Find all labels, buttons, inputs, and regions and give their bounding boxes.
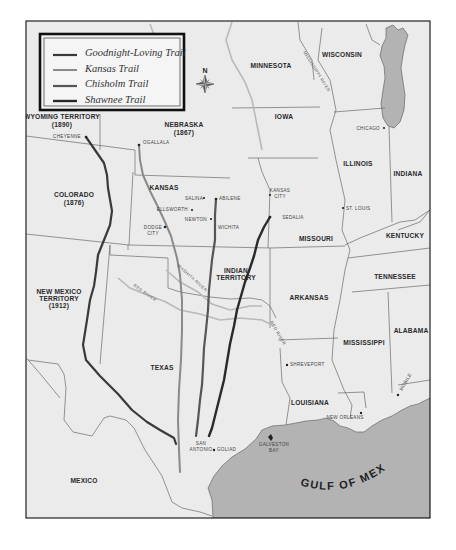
label-texas: TEXAS <box>151 364 174 371</box>
label-nebraska-year: (1867) <box>174 129 194 137</box>
label-tennessee: TENNESSEE <box>374 273 416 280</box>
label-wichita: WICHITA <box>218 225 240 230</box>
label-cheyenne: CHEYENNE <box>53 134 81 139</box>
label-dodge-city-2: CITY <box>147 231 159 236</box>
label-dodge-city-1: DODGE <box>144 225 162 230</box>
label-san-antonio-2: ANTONIO <box>190 447 213 452</box>
label-chicago: CHICAGO <box>356 126 380 131</box>
legend-label-goodnight-loving: Goodnight-Loving Trail <box>85 47 186 58</box>
label-goliad: GOLIAD <box>217 447 237 452</box>
label-st-louis: ST. LOUIS <box>346 206 370 211</box>
label-kansas-city-2: CITY <box>274 194 286 199</box>
label-mexico: MEXICO <box>70 477 97 484</box>
label-illinois: ILLINOIS <box>343 160 373 167</box>
label-san-antonio-1: SAN <box>196 441 206 446</box>
label-new-orleans: NEW ORLEANS <box>326 415 363 420</box>
label-kansas-city-1: KANSAS <box>270 188 290 193</box>
label-indian-territory-2: TERRITORY <box>216 274 256 281</box>
label-kansas: KANSAS <box>149 184 178 191</box>
label-wyoming-year: (1890) <box>52 121 72 129</box>
compass-north-label: N <box>202 67 207 74</box>
legend-label-chisholm: Chisholm Trail <box>85 78 148 89</box>
label-abilene: ABILENE <box>219 196 241 201</box>
label-kentucky: KENTUCKY <box>386 232 425 239</box>
legend-label-shawnee: Shawnee Trail <box>85 94 145 105</box>
label-colorado-year: (1876) <box>64 199 84 207</box>
label-newton: NEWTON <box>185 217 207 222</box>
label-sedalia: SEDALIA <box>282 215 304 220</box>
label-missouri: MISSOURI <box>299 235 333 242</box>
label-new-mexico: NEW MEXICO <box>36 288 81 295</box>
label-galveston-2: BAY <box>269 448 279 453</box>
label-shreveport: SHREVEPORT <box>290 362 325 367</box>
label-alabama: ALABAMA <box>394 327 429 334</box>
label-mississippi: MISSISSIPPI <box>343 339 384 346</box>
label-colorado: COLORADO <box>54 191 94 198</box>
label-arkansas: ARKANSAS <box>290 294 329 301</box>
label-iowa: IOWA <box>275 113 293 120</box>
label-new-mexico-2: TERRITORY <box>39 295 79 302</box>
label-louisiana: LOUISIANA <box>291 399 329 406</box>
label-galveston-1: GALVESTON <box>259 442 289 447</box>
label-salina: SALINA <box>185 196 204 201</box>
label-nebraska: NEBRASKA <box>165 121 204 128</box>
cattle-trails-map: WYOMING TERRITORY (1890) NEBRASKA (1867)… <box>0 0 456 550</box>
label-new-mexico-year: (1912) <box>49 302 69 310</box>
label-indiana: INDIANA <box>394 170 423 177</box>
label-wyoming: WYOMING TERRITORY <box>24 113 100 120</box>
label-wisconsin: WISCONSIN <box>322 51 362 58</box>
label-ogallala: OGALLALA <box>143 140 170 145</box>
label-ellsworth: ELLSWORTH <box>157 207 188 212</box>
label-minnesota: MINNESOTA <box>251 62 292 69</box>
legend-label-kansas: Kansas Trail <box>84 63 139 74</box>
label-indian-territory-1: INDIAN <box>224 267 248 274</box>
